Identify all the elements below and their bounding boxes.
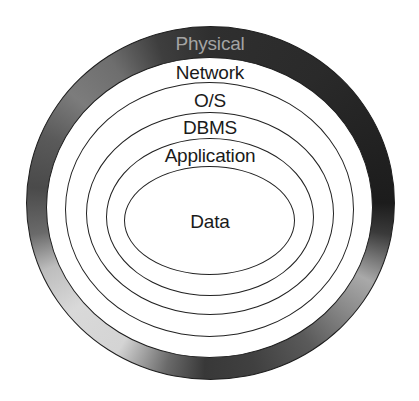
layer-label-application: Application [110,146,310,165]
layer-label-dbms: DBMS [110,118,310,137]
layer-label-data: Data [110,212,310,231]
layer-label-os: O/S [110,91,310,110]
layer-label-network: Network [110,63,310,82]
security-layers-diagram: Physical Network O/S DBMS Application Da… [0,0,419,401]
layer-label-physical: Physical [110,34,310,53]
